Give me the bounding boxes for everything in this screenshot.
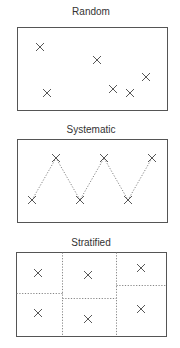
x-mark-icon [93, 56, 101, 64]
x-mark-icon [100, 154, 108, 162]
x-mark-icon [148, 154, 156, 162]
panel-title-stratified: Stratified [71, 237, 110, 248]
x-mark-icon [124, 196, 132, 204]
x-mark-icon [34, 269, 42, 277]
zigzag-sampling-path [32, 158, 152, 200]
x-mark-icon [137, 305, 145, 313]
sampling-methods-diagram: Random Systematic Stratified [0, 0, 180, 348]
x-mark-icon [142, 73, 150, 81]
panel-title-random: Random [72, 6, 110, 17]
panel-frame-random [18, 28, 168, 111]
x-mark-icon [126, 89, 134, 97]
x-mark-icon [36, 43, 44, 51]
sample-marks [36, 43, 150, 97]
panel-random: Random [18, 6, 168, 111]
panel-frame-systematic [18, 140, 168, 223]
x-mark-icon [52, 154, 60, 162]
panel-title-systematic: Systematic [67, 124, 116, 135]
panel-systematic: Systematic [18, 124, 168, 223]
x-mark-icon [84, 315, 92, 323]
x-mark-icon [137, 264, 145, 272]
panel-stratified: Stratified [17, 237, 167, 337]
x-mark-icon [34, 309, 42, 317]
x-mark-icon [43, 89, 51, 97]
x-mark-icon [109, 85, 117, 93]
x-mark-icon [28, 196, 36, 204]
x-mark-icon [76, 196, 84, 204]
x-mark-icon [84, 271, 92, 279]
